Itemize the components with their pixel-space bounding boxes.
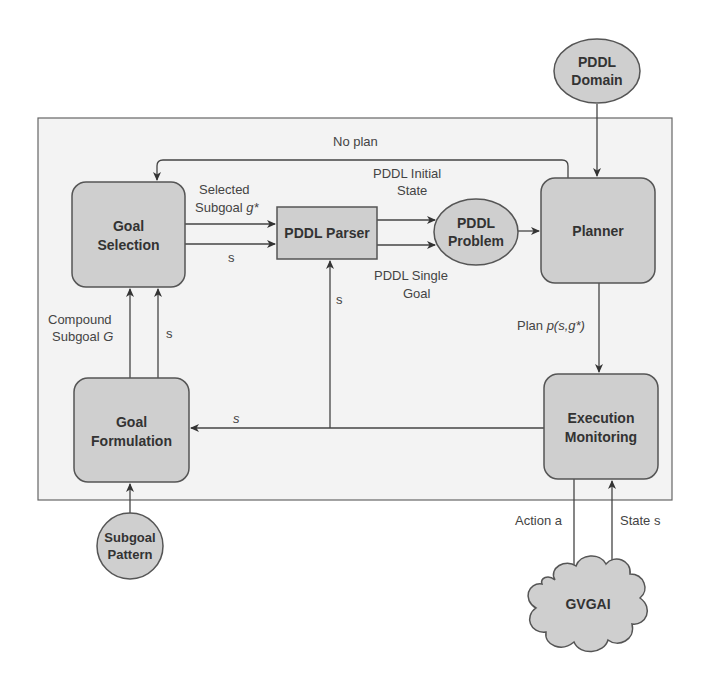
goal-selection-label-line1: Goal bbox=[113, 218, 144, 234]
goal-selection-node: Goal Selection bbox=[72, 182, 185, 287]
pddl-parser-node: PDDL Parser bbox=[277, 207, 377, 259]
compound-subgoal-label-line2: Subgoal G bbox=[52, 329, 113, 344]
pddl-initial-state-label-line2: State bbox=[397, 183, 427, 198]
subgoal-pattern-label-line2: Pattern bbox=[108, 547, 153, 562]
state-label: State s bbox=[620, 513, 661, 528]
pddl-domain-label-line2: Domain bbox=[571, 72, 622, 88]
pddl-parser-label: PDDL Parser bbox=[284, 225, 370, 241]
pddl-initial-state-label-line1: PDDL Initial bbox=[373, 166, 441, 181]
compound-subgoal-label-line1: Compound bbox=[48, 312, 112, 327]
goal-formulation-label-line2: Formulation bbox=[91, 433, 172, 449]
s-to-parser-label: s bbox=[228, 250, 235, 265]
goal-formulation-node: Goal Formulation bbox=[74, 378, 189, 482]
execution-monitoring-label-line1: Execution bbox=[568, 410, 635, 426]
subgoal-pattern-label-line1: Subgoal bbox=[104, 530, 155, 545]
pddl-domain-label-line1: PDDL bbox=[578, 54, 617, 70]
goal-selection-label-line2: Selection bbox=[97, 237, 159, 253]
pddl-problem-label-line2: Problem bbox=[448, 233, 504, 249]
pddl-domain-node: PDDL Domain bbox=[554, 39, 640, 103]
selected-subgoal-label-line2: Subgoal g* bbox=[195, 200, 260, 215]
pddl-problem-node: PDDL Problem bbox=[434, 199, 518, 265]
execution-monitoring-label-line2: Monitoring bbox=[565, 429, 637, 445]
pddl-single-goal-label-line1: PDDL Single bbox=[374, 268, 448, 283]
selected-subgoal-label-line1: Selected bbox=[199, 182, 250, 197]
planner-label: Planner bbox=[572, 223, 624, 239]
goal-formulation-label-line1: Goal bbox=[116, 414, 147, 430]
s-up-parser-label: s bbox=[336, 292, 343, 307]
architecture-diagram: Goal Selection PDDL Parser PDDL Problem … bbox=[0, 0, 710, 688]
no-plan-label: No plan bbox=[333, 134, 378, 149]
s-to-formulation-label: s bbox=[233, 411, 240, 426]
subgoal-pattern-node: Subgoal Pattern bbox=[97, 513, 163, 579]
pddl-single-goal-label-line2: Goal bbox=[403, 286, 431, 301]
gvgai-cloud-node: GVGAI bbox=[528, 556, 647, 652]
gvgai-label: GVGAI bbox=[565, 596, 610, 612]
execution-monitoring-node: Execution Monitoring bbox=[544, 374, 658, 479]
planner-node: Planner bbox=[541, 178, 655, 283]
pddl-problem-label-line1: PDDL bbox=[457, 215, 496, 231]
plan-label: Plan p(s,g*) bbox=[517, 318, 585, 333]
action-label: Action a bbox=[515, 513, 563, 528]
s-up-selection-label: s bbox=[166, 326, 173, 341]
